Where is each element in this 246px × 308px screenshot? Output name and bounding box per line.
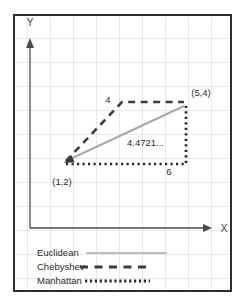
point-a-label: (1,2) [52, 176, 72, 187]
point-b-label: (5,4) [191, 87, 211, 98]
figure-canvas: Y X (1,2) (5,4) 4 4.4721... 6 Euclidean … [0, 0, 246, 308]
legend-label-chebyshev: Chebyshev [37, 261, 85, 272]
euclidean-value-label: 4.4721... [127, 137, 164, 148]
legend-label-manhattan: Manhattan [37, 275, 82, 286]
chebyshev-value-label: 4 [105, 94, 110, 105]
manhattan-value-label: 6 [166, 166, 171, 177]
y-axis-label: Y [27, 17, 34, 28]
distance-metrics-figure: Y X (1,2) (5,4) 4 4.4721... 6 Euclidean … [0, 0, 246, 308]
x-axis-label: X [221, 223, 228, 234]
legend-label-euclidean: Euclidean [37, 247, 79, 258]
